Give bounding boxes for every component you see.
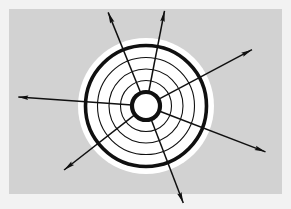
hub-group xyxy=(132,92,160,120)
hub-inner-disc xyxy=(134,94,158,118)
radial-diagram-svg xyxy=(0,0,291,209)
figure-container: Concentric rings with radiating outward … xyxy=(0,0,291,209)
